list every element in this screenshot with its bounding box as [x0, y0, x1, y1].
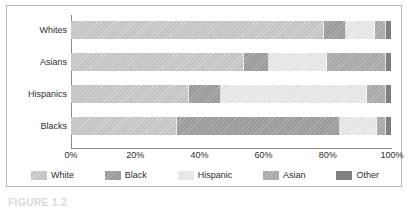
legend-item-hispanic[interactable]: Hispanic: [178, 170, 233, 180]
stacked-bar-whites: [71, 21, 391, 39]
legend-item-asian[interactable]: Asian: [263, 170, 306, 180]
legend-swatch-black-icon: [105, 171, 121, 180]
legend-label-other: Other: [356, 170, 379, 180]
legend-swatch-other-icon: [336, 171, 352, 180]
bar-segment-other: [386, 85, 391, 103]
chart-legend: White Black Hispanic Asian Other: [31, 167, 379, 183]
bar-segment-white: [71, 117, 177, 135]
legend-label-hispanic: Hispanic: [198, 170, 233, 180]
x-axis-line: [71, 148, 392, 149]
bar-segment-other: [386, 117, 391, 135]
bar-segment-hispanic: [346, 21, 375, 39]
bar-segment-hispanic: [269, 53, 327, 71]
bar-segment-white: [71, 21, 324, 39]
x-tick-100: 100%: [380, 150, 403, 160]
y-axis-label-asians: Asians: [11, 53, 67, 71]
bar-segment-white: [71, 53, 244, 71]
bar-segment-black: [177, 117, 340, 135]
bar-row: [71, 53, 391, 71]
bar-segment-other: [386, 53, 391, 71]
bar-row: [71, 117, 391, 135]
bar-row: [71, 21, 391, 39]
legend-label-asian: Asian: [283, 170, 306, 180]
legend-item-black[interactable]: Black: [105, 170, 147, 180]
x-tick-20: 20%: [126, 150, 144, 160]
plot-area: [71, 15, 391, 147]
stacked-bar-blacks: [71, 117, 391, 135]
y-axis-labels: Whites Asians Hispanics Blacks: [7, 15, 67, 147]
x-tick-80: 80%: [319, 150, 337, 160]
x-axis-ticks: 0% 20% 40% 60% 80% 100%: [71, 150, 392, 164]
bar-segment-asian: [367, 85, 386, 103]
y-axis-label-hispanics: Hispanics: [11, 85, 67, 103]
figure-root: Whites Asians Hispanics Blacks: [0, 0, 411, 218]
bar-segment-asian: [375, 21, 386, 39]
y-axis-label-whites: Whites: [11, 21, 67, 39]
legend-item-white[interactable]: White: [31, 170, 74, 180]
legend-swatch-white-icon: [31, 171, 47, 180]
bar-segment-black: [324, 21, 346, 39]
bar-segment-black: [244, 53, 270, 71]
stacked-bar-asians: [71, 53, 391, 71]
stacked-bar-hispanics: [71, 85, 391, 103]
legend-item-other[interactable]: Other: [336, 170, 379, 180]
x-tick-40: 40%: [190, 150, 208, 160]
bar-segment-black: [189, 85, 221, 103]
legend-swatch-hispanic-icon: [178, 171, 194, 180]
x-tick-60: 60%: [255, 150, 273, 160]
x-tick-0: 0%: [64, 150, 77, 160]
legend-swatch-asian-icon: [263, 171, 279, 180]
bar-segment-hispanic: [221, 85, 367, 103]
bar-segment-asian: [377, 117, 387, 135]
bar-segment-other: [386, 21, 391, 39]
legend-label-black: Black: [125, 170, 147, 180]
bar-segment-white: [71, 85, 189, 103]
y-axis-label-blacks: Blacks: [11, 117, 67, 135]
bar-row: [71, 85, 391, 103]
legend-label-white: White: [51, 170, 74, 180]
bar-segment-asian: [327, 53, 386, 71]
bar-segment-hispanic: [340, 117, 377, 135]
figure-caption: FIGURE 1.2: [8, 197, 67, 208]
chart-frame: Whites Asians Hispanics Blacks: [6, 5, 402, 187]
